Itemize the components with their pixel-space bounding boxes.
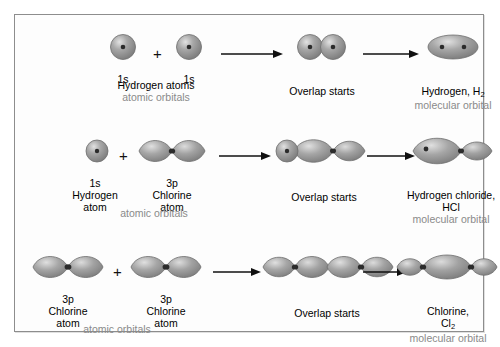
stage-h-reactant-left: 1s [97,27,149,85]
caption-cl2-overlap: Overlap starts [257,307,397,319]
stage-hcl-overlap: Overlap starts [269,131,379,203]
stage-cl2-reactant-left: 3p Chlorine atom [25,247,111,330]
orbital-overlap-figure: 1s + 1s Hydrogen atoms atomic orbitals [14,14,484,332]
p-orbital-dumbbell-icon [129,131,215,175]
stage-muted-line: atomic orbitals [89,91,223,103]
orbital-art-1s-right [163,27,215,71]
caption-hcl-overlap: Overlap starts [269,191,379,203]
orbital-art-hcl-overlap [269,131,379,175]
orbital-art-h2-molecular [411,27,500,71]
subscript: 2 [451,322,455,331]
subscript: 2 [480,90,484,99]
plus-sign-row3: + [113,263,122,280]
stage-line-1: Overlap starts [269,191,379,203]
stage-line-1: Chlorine [25,305,111,317]
stage-cl2-reactant-right: 3p Chlorine atom [123,247,209,330]
stage-line-1: Chlorine, [393,305,500,317]
s-orbital-sphere-icon [71,131,119,175]
cl2-molecular-orbital-icon [393,247,500,291]
orbital-art-hcl-molecular [399,131,500,175]
stage-h-reactant-right: 1s [163,27,215,85]
orbital-art-1s-left [97,27,149,71]
stage-h-overlap: Overlap starts [283,27,361,97]
orbital-art-h2-overlap [283,27,361,71]
s-orbital-sphere-icon [163,27,215,71]
stage-line-1: Overlap starts [257,307,397,319]
stage-hcl-product: Hydrogen chloride, HCl molecular orbital [399,131,500,226]
orbital-label: 3p [129,177,215,189]
arrow-right-icon [219,150,271,162]
caption-hcl: Hydrogen chloride, HCl molecular orbital [399,189,500,226]
caption-hydrogen-atoms: Hydrogen atoms atomic orbitals [89,79,223,103]
stage-muted-line: molecular orbital [393,332,500,344]
p-orbital-dumbbell-icon [25,247,111,291]
p-orbital-dumbbell-icon [123,247,209,291]
stage-h2-product: Hydrogen, H2 molecular orbital [411,27,500,112]
stage-line-1: Overlap starts [283,85,361,97]
stage-muted-line: molecular orbital [399,213,500,225]
plus-sign-row2: + [119,147,128,164]
stage-line-1: Hydrogen, H2 [411,85,495,99]
arrow-right-icon [221,48,283,60]
product-name: Hydrogen, H [421,85,480,97]
s-orbital-sphere-icon [97,27,149,71]
stage-line-1: Hydrogen chloride, [399,189,500,201]
orbital-label: 3p [25,293,111,305]
orbital-label: 3p [123,293,209,305]
caption-hcl-atomic-orbitals: atomic orbitals [79,207,229,219]
stage-hcl-reactant-cl: 3p Chlorine atom [129,131,215,214]
orbital-art-1s-h [71,131,119,175]
stage-cl2-product: Chlorine, Cl2 molecular orbital [393,247,500,344]
arrow-right-row2-a [219,148,271,166]
stage-line-2: HCl [399,201,500,213]
caption-h-overlap: Overlap starts [283,85,361,97]
stage-cl2-overlap: Overlap starts [257,247,397,319]
stage-muted-line: atomic orbitals [41,323,193,335]
sigma-ellipse-icon [411,27,500,71]
sphere-plus-dumbbell-icon [269,131,379,175]
stage-muted-line: molecular orbital [411,99,495,111]
diagram-row-hydrogen: 1s + 1s Hydrogen atoms atomic orbitals [15,17,483,123]
caption-cl2-atomic-orbitals: atomic orbitals [41,323,193,335]
stage-line-1: Hydrogen atoms [89,79,223,91]
stage-line-1: Chlorine [123,305,209,317]
diagram-row-chlorine: 3p Chlorine atom + 3p Chlorine atom [15,237,483,343]
caption-cl2: Chlorine, Cl2 molecular orbital [393,305,500,344]
hcl-molecular-orbital-icon [399,131,500,175]
orbital-art-3p-left [25,247,111,291]
orbital-art-3p-right [123,247,209,291]
formula: Cl [441,317,451,329]
arrow-right-row1-a [221,46,283,64]
stage-muted-line: atomic orbitals [79,207,229,219]
stage-line-1: Hydrogen [71,189,119,201]
orbital-art-3p-cl [129,131,215,175]
arrow-right-icon [213,266,261,278]
stage-line-2: Cl2 [393,317,500,331]
orbital-art-cl2-molecular [393,247,500,291]
two-overlapping-spheres-icon [283,27,361,71]
diagram-row-hydrogen-chloride: 1s Hydrogen atom + [15,123,483,229]
plus-sign-row1: + [153,45,162,62]
orbital-label: 1s [71,177,119,189]
arrow-right-row3-a [213,264,261,282]
stage-line-1: Chlorine [129,189,215,201]
stage-hcl-reactant-h: 1s Hydrogen atom [71,131,119,214]
caption-h2: Hydrogen, H2 molecular orbital [411,85,495,112]
